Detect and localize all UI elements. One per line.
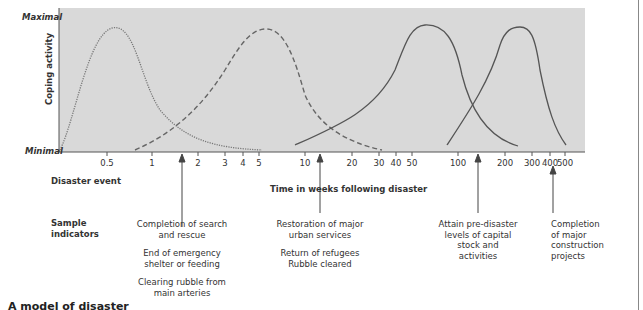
row-label-sample: Sample: [51, 218, 99, 229]
indicator-group-3: Attain pre-disaster levels of capital st…: [430, 219, 526, 261]
row-label-indicators: indicators: [51, 229, 99, 240]
row-label-disaster-event: Disaster event: [51, 176, 121, 187]
x-tick-label: 30: [374, 158, 385, 168]
y-axis-max-label: Maximal: [22, 12, 62, 22]
curve-reconstruction-1: [295, 25, 518, 146]
y-axis-title: Coping activity: [44, 33, 54, 105]
figure-caption: A model of disaster: [8, 300, 129, 310]
x-tick-label: 400: [542, 158, 558, 168]
y-axis-min-label: Minimal: [25, 146, 63, 156]
indicator-group-4: Completion of major construction project…: [551, 219, 631, 261]
x-tick-label: 40: [391, 158, 402, 168]
curve-emergency-dotted: [60, 28, 262, 150]
x-tick-label: 20: [347, 158, 358, 168]
indicator-group-2: Restoration of majorurban services Retur…: [270, 219, 370, 277]
x-tick-label: 1: [149, 158, 154, 168]
x-tick-label: 200: [497, 158, 513, 168]
x-tick-label: 500: [557, 158, 573, 168]
x-tick-label: 4: [240, 158, 245, 168]
x-axis-title: Time in weeks following disaster: [270, 184, 427, 194]
x-axis-ticks: [107, 152, 565, 156]
x-tick-label: 0.5: [100, 158, 114, 168]
x-tick-label: 300: [524, 158, 540, 168]
curve-restoration-dashed: [135, 29, 382, 150]
x-tick-label: 100: [450, 158, 466, 168]
x-tick-label: 10: [300, 158, 311, 168]
x-tick-label: 3: [222, 158, 227, 168]
indicator-group-1: Completion of searchand rescue End of em…: [132, 219, 232, 306]
page-edge-rule: [638, 0, 639, 310]
x-tick-label: 2: [195, 158, 200, 168]
x-tick-label: 5: [256, 158, 261, 168]
row-label-sample-indicators: Sample indicators: [51, 218, 99, 240]
x-tick-label: 50: [407, 158, 418, 168]
